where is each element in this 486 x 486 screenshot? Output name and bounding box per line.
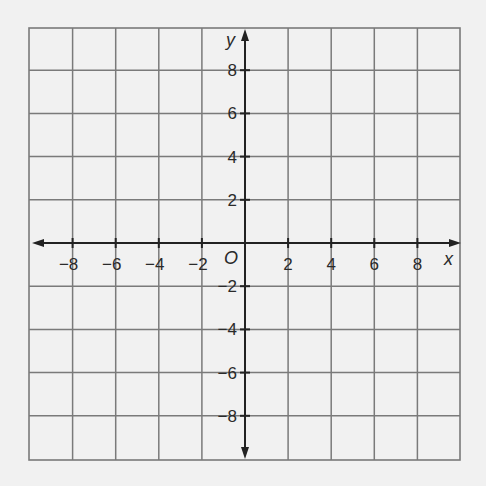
y-tick-label: −6 [218, 364, 237, 383]
coordinate-plane: −8−6−4−224688642−2−4−6−8 x y O [0, 0, 486, 486]
y-tick-label: −4 [218, 320, 237, 339]
y-tick-label: 2 [228, 191, 237, 210]
x-tick-label: 2 [283, 255, 292, 274]
y-tick-label: 4 [228, 148, 237, 167]
x-tick-label: −4 [145, 255, 164, 274]
y-axis-arrow-up-icon [241, 29, 249, 41]
y-tick-label: −8 [218, 407, 237, 426]
x-axis-label: x [443, 249, 454, 269]
x-tick-label: −6 [102, 255, 121, 274]
x-axis-arrow-left-icon [32, 239, 44, 247]
x-tick-label: 8 [413, 255, 422, 274]
y-tick-label: −2 [218, 277, 237, 296]
y-axis-label: y [224, 30, 236, 50]
y-tick-label: 8 [228, 61, 237, 80]
x-tick-label: −2 [188, 255, 207, 274]
x-tick-label: 4 [326, 255, 335, 274]
x-tick-label: −8 [59, 255, 78, 274]
y-axis-arrow-down-icon [241, 447, 249, 459]
x-tick-label: 6 [370, 255, 379, 274]
origin-label: O [224, 248, 238, 268]
y-tick-label: 6 [228, 104, 237, 123]
axes [32, 29, 461, 459]
